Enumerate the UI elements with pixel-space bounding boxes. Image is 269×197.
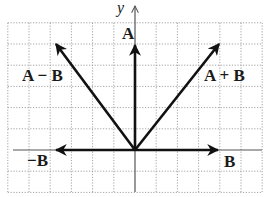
- y-axis-label: y: [115, 0, 125, 17]
- label-neg-B: −B: [27, 151, 48, 170]
- vectors: [56, 44, 219, 150]
- vector-diagram: y A B −B A + B A − B: [0, 0, 269, 197]
- label-A-plus-B: A + B: [204, 66, 245, 85]
- label-A-minus-B: A − B: [22, 66, 63, 85]
- vector-A-minus-B-arrow: [56, 44, 135, 150]
- label-B: B: [224, 152, 235, 171]
- label-A: A: [122, 24, 135, 43]
